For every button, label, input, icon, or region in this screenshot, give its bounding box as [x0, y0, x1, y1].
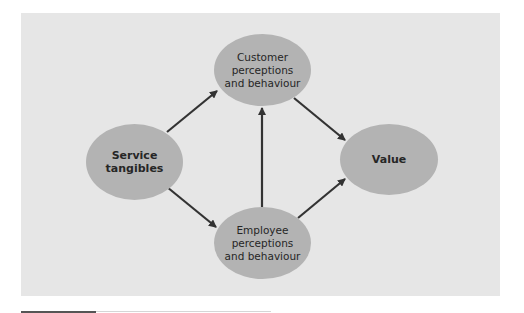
node-label: Value: [372, 153, 406, 166]
arrow-employee-to-value: [298, 179, 345, 218]
node-label: Employee perceptions and behaviour: [225, 224, 301, 263]
arrow-customer-to-value: [294, 98, 345, 140]
node-customer-perceptions: Customer perceptions and behaviour: [214, 34, 311, 106]
node-label: Customer perceptions and behaviour: [225, 51, 301, 90]
arrow-service-to-employee: [167, 187, 216, 227]
node-service-tangibles: Service tangibles: [86, 124, 183, 200]
arrow-service-to-customer: [167, 91, 217, 132]
node-employee-perceptions: Employee perceptions and behaviour: [214, 207, 311, 279]
caption-rule-light: [96, 311, 271, 312]
node-value: Value: [340, 124, 438, 195]
node-label: Service tangibles: [106, 149, 164, 175]
